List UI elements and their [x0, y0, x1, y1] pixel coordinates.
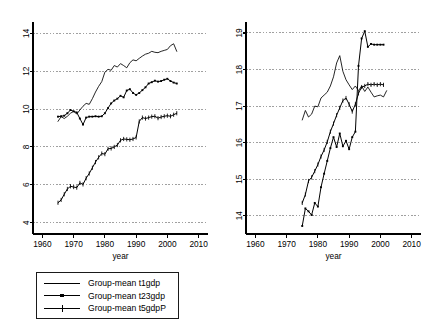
- series-marker-square: [154, 80, 156, 82]
- series-marker-square: [348, 148, 350, 150]
- series-marker-square: [66, 112, 68, 114]
- series-line: [58, 113, 177, 203]
- series-marker-square: [141, 89, 143, 91]
- series-marker-square: [160, 80, 162, 82]
- series-marker-square: [367, 46, 369, 48]
- y-axis-tick-label: 10: [21, 104, 31, 114]
- legend-label: Group-mean t5gdpP: [88, 302, 166, 315]
- series-marker-square: [345, 140, 347, 142]
- series-marker-square: [126, 90, 128, 92]
- series-marker-square: [176, 83, 178, 85]
- plot-area-right: 141516171819196019701980199020002010year: [213, 0, 426, 270]
- series-marker-square: [370, 43, 372, 45]
- series-marker-square: [98, 116, 100, 118]
- series-marker-square: [113, 100, 115, 102]
- series-marker-square: [57, 116, 59, 118]
- series-marker-square: [120, 95, 122, 97]
- x-axis-tick-label: 1960: [246, 239, 265, 249]
- series-marker-square: [135, 94, 137, 96]
- series-marker-square: [308, 210, 310, 212]
- series-marker-square: [95, 115, 97, 117]
- series-marker-square: [91, 116, 93, 118]
- series-marker-square: [326, 160, 328, 162]
- legend-item: Group-mean t1gdp: [42, 277, 172, 290]
- series-marker-square: [342, 145, 344, 147]
- x-axis-tick-label: 1990: [127, 239, 146, 249]
- y-axis-tick-label: 6: [21, 182, 31, 187]
- series-marker-square: [323, 173, 325, 175]
- series-marker-square: [63, 115, 65, 117]
- series-marker-square: [379, 44, 381, 46]
- series-marker-square: [148, 83, 150, 85]
- series-marker-square: [107, 107, 109, 109]
- series-marker-square: [311, 214, 313, 216]
- series-marker-square: [336, 146, 338, 148]
- legend-left: Group-mean t1gdp Group-mean t23gdp Group…: [36, 272, 179, 319]
- series-marker-square: [123, 96, 125, 98]
- y-axis-tick-label: 14: [234, 211, 244, 221]
- x-axis-tick-label: 2010: [402, 239, 421, 249]
- series-marker-square: [116, 98, 118, 100]
- legend-label: Group-mean t1gdp: [88, 277, 160, 290]
- x-axis-tick-label: 1990: [340, 239, 359, 249]
- x-axis-tick-label: 1980: [309, 239, 328, 249]
- x-axis-tick-label: 1970: [64, 239, 83, 249]
- series-marker-square: [329, 147, 331, 149]
- series-marker-square: [76, 112, 78, 114]
- legend-key-line-icon: [42, 277, 82, 289]
- y-axis-tick-label: 16: [234, 138, 244, 148]
- series-marker-square: [104, 112, 106, 114]
- series-marker-square: [163, 79, 165, 81]
- series-marker-square: [333, 136, 335, 138]
- series-marker-square: [170, 80, 172, 82]
- series-marker-square: [361, 37, 363, 39]
- series-marker-square: [145, 86, 147, 88]
- legend-key-plus-icon: [42, 302, 82, 314]
- series-marker-square: [317, 206, 319, 208]
- y-axis-tick-label: 14: [21, 28, 31, 38]
- x-axis-tick-label: 2000: [158, 239, 177, 249]
- series-marker-square: [60, 115, 62, 117]
- series-marker-square: [151, 81, 153, 83]
- legend-item: Group-mean t5gdpP: [42, 302, 172, 315]
- x-axis-tick-label: 1970: [277, 239, 296, 249]
- series-marker-square: [301, 225, 303, 227]
- y-axis-tick-label: 4: [21, 220, 31, 225]
- series-marker-square: [358, 65, 360, 67]
- x-axis-title: year: [325, 251, 341, 261]
- y-axis-tick-label: 12: [21, 66, 31, 76]
- legend-item: Group-mean t23gdp: [42, 290, 172, 303]
- series-marker-square: [85, 117, 87, 119]
- series-marker-square: [320, 186, 322, 188]
- series-marker-square: [132, 92, 134, 94]
- chart-panel-left: 468101214196019701980199020002010year Gr…: [0, 0, 213, 325]
- legend-key-square-icon: [42, 290, 82, 302]
- y-axis-tick-label: 15: [234, 174, 244, 184]
- series-marker-square: [314, 202, 316, 204]
- series-marker-square: [101, 115, 103, 117]
- x-axis-tick-label: 2010: [189, 239, 208, 249]
- y-axis-tick-label: 19: [234, 28, 244, 38]
- series-line: [302, 31, 383, 226]
- x-axis-tick-label: 1980: [96, 239, 115, 249]
- series-marker-square: [110, 102, 112, 104]
- series-marker-square: [304, 207, 306, 209]
- chart-panel-right: 141516171819196019701980199020002010year…: [213, 0, 426, 325]
- series-marker-square: [383, 44, 385, 46]
- series-marker-square: [73, 110, 75, 112]
- y-axis-tick-label: 17: [234, 101, 244, 111]
- legend-label: Group-mean t23gdp: [88, 290, 165, 303]
- x-axis-tick-label: 2000: [371, 239, 390, 249]
- series-marker-square: [157, 81, 159, 83]
- series-marker-square: [351, 136, 353, 138]
- series-marker-square: [82, 124, 84, 126]
- series-marker-square: [173, 82, 175, 84]
- series-marker-square: [166, 78, 168, 80]
- series-marker-square: [376, 44, 378, 46]
- figure-root: 468101214196019701980199020002010year Gr…: [0, 0, 426, 325]
- series-marker-square: [373, 44, 375, 46]
- y-axis-tick-label: 18: [234, 65, 244, 75]
- series-marker-square: [138, 92, 140, 94]
- plot-area-left: 468101214196019701980199020002010year: [0, 0, 213, 270]
- x-axis-tick-label: 1960: [33, 239, 52, 249]
